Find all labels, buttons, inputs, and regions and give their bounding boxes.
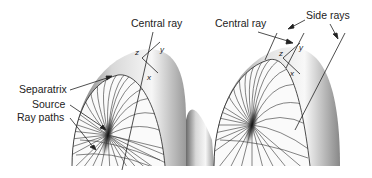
left-axis-z: z bbox=[134, 48, 139, 57]
separatrix-label: Separatrix bbox=[19, 83, 68, 95]
left-panel: z y x Central ray Separatrix Source Ray … bbox=[17, 17, 186, 172]
source-label: Source bbox=[32, 98, 65, 110]
right-axis-z: z bbox=[278, 49, 283, 58]
diagram-figure: z y x Central ray Separatrix Source Ray … bbox=[0, 0, 372, 178]
diagram-svg: z y x Central ray Separatrix Source Ray … bbox=[0, 0, 372, 178]
right-central-ray-label: Central ray bbox=[215, 17, 267, 29]
right-panel: z y x Central ray Side rays bbox=[186, 9, 350, 172]
right-label-arrows bbox=[258, 20, 338, 44]
side-rays-label: Side rays bbox=[306, 9, 350, 21]
ray-paths-label: Ray paths bbox=[17, 111, 64, 123]
right-back-body bbox=[186, 110, 214, 166]
left-central-ray-label: Central ray bbox=[131, 17, 183, 29]
